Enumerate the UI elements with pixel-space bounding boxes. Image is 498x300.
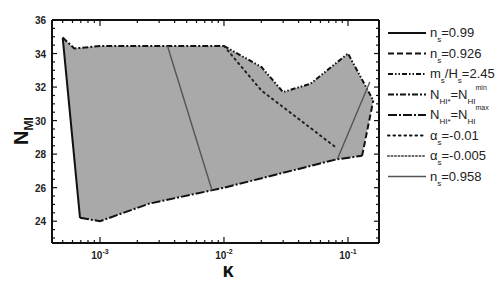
x-tick-label: 10-3 <box>91 248 108 261</box>
svg-text:NMI: NMI <box>10 117 36 145</box>
y-axis-title: NMI <box>10 117 36 145</box>
legend-item: ns=0.926 <box>388 46 481 65</box>
legend-item: NHI*=NHImax <box>388 104 489 126</box>
y-axis-title-main: N <box>10 130 32 144</box>
x-tick-label: 10-1 <box>339 248 356 261</box>
chart: 2426283032343610-310-210-1 ns=0.99ns=0.9… <box>0 0 498 300</box>
legend-label: ms/Hs=2.45 <box>430 66 495 85</box>
legend-item: αs=-0.005 <box>388 148 486 167</box>
legend-label: NHI*=NHImin <box>430 84 487 106</box>
legend-item: ns=0.958 <box>388 169 481 188</box>
legend-item: αs=-0.01 <box>388 128 479 147</box>
y-axis-title-sub: MI <box>22 117 36 130</box>
legend-label: αs=-0.01 <box>430 128 479 147</box>
y-tick-label: 34 <box>35 49 47 60</box>
legend-label: NHI*=NHImax <box>430 104 489 126</box>
legend-label: ns=0.958 <box>430 169 481 188</box>
series-line-3 <box>63 38 224 49</box>
legend-label: αs=-0.005 <box>430 148 486 167</box>
y-tick-label: 28 <box>35 149 47 160</box>
legend-label: ns=0.99 <box>430 25 474 44</box>
legend-item: NHI*=NHImin <box>388 84 487 106</box>
x-axis-title: κ <box>222 259 234 281</box>
legend-item: ms/Hs=2.45 <box>388 66 495 85</box>
y-tick-label: 36 <box>35 15 47 26</box>
legend-label: ns=0.926 <box>430 46 481 65</box>
legend-item: ns=0.99 <box>388 25 474 44</box>
plot-area <box>63 38 374 222</box>
legend: ns=0.99ns=0.926ms/Hs=2.45NHI*=NHIminNHI*… <box>388 25 495 188</box>
allowed-region <box>63 38 374 222</box>
y-tick-label: 24 <box>35 216 47 227</box>
y-tick-label: 26 <box>35 183 47 194</box>
y-tick-label: 32 <box>35 82 47 93</box>
y-tick-label: 30 <box>35 116 47 127</box>
